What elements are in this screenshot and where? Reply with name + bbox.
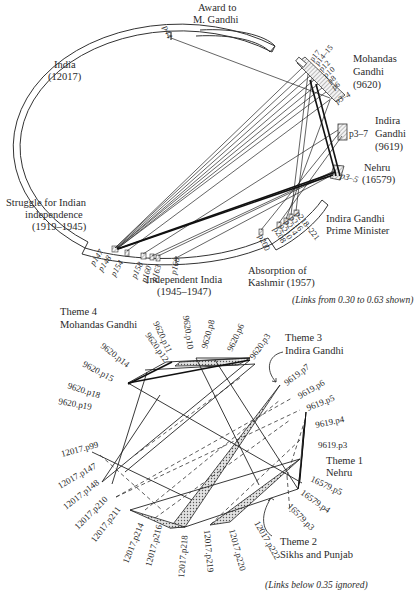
theme3-label-1: Theme 3: [285, 332, 322, 343]
indira-pm-label-2: Prime Minister: [326, 225, 390, 236]
theme1-label-2: Nehru: [326, 467, 353, 478]
node-9619-p7: 9619.p7: [282, 361, 312, 387]
indira-segment: [338, 124, 347, 140]
node-9620-p6: 9620.p6: [225, 322, 247, 353]
nehru-label-2: (16579): [362, 174, 396, 186]
theme3-arrow-icon: [269, 352, 283, 382]
award-page-label: p44: [161, 24, 175, 40]
top-arc-diagram: Award to M. Gandhi p44 India (12017) Moh…: [6, 2, 413, 306]
node-16579-p4: 16579.p4: [299, 487, 333, 515]
node-9619-p3: 9619.p3: [318, 440, 348, 450]
bottom-caption: (Links below 0.35 ignored): [265, 580, 368, 591]
india-label-1: India: [54, 59, 76, 70]
node-9620-p10: 9620.p10: [181, 315, 196, 350]
indira-label-3: (9619): [375, 141, 403, 153]
node-12017-p218: 12017.p218: [176, 534, 190, 578]
theme4-label-2: Mohandas Gandhi: [60, 319, 137, 330]
award-label-1: Award to: [198, 2, 236, 13]
node-9620-p15: 9620.p15: [81, 359, 116, 384]
mohandas-label-3: (9620): [353, 79, 381, 91]
india-label-2: (12017): [48, 71, 82, 83]
node-12017-p99: 12017.p99: [60, 439, 100, 459]
node-9620-p19: 9620.p19: [58, 396, 93, 412]
node-12017-p214: 12017.p214: [121, 521, 146, 565]
theme3-wedge: [170, 385, 280, 528]
indira-pages-label: p3–7: [349, 129, 368, 139]
nehru-label-1: Nehru: [364, 162, 391, 173]
indira-label-2: Gandhi: [375, 128, 406, 139]
node-9620-p3: 9620.p3: [247, 331, 272, 361]
theme1-label-1: Theme 1: [326, 455, 363, 466]
node-9619-p4: 9619.p4: [314, 414, 345, 430]
theme2-label-1: Theme 2: [280, 536, 317, 547]
struggle-label-3: (1919–1945): [32, 221, 87, 233]
struggle-label-1: Struggle for Indian: [6, 197, 87, 208]
mohandas-label-1: Mohandas: [353, 53, 397, 64]
node-16579-p3: 16579.p3: [286, 501, 317, 532]
theme3-label-2: Indira Gandhi: [285, 345, 344, 356]
node-12017-p219: 12017.p219: [202, 529, 216, 573]
mohandas-label-2: Gandhi: [353, 66, 384, 77]
node-9620-p8: 9620.p8: [199, 318, 216, 349]
kashmir-label-2: Kashmir (1957): [248, 277, 315, 289]
node-12017-p222: 12017.p222: [252, 519, 282, 561]
figure-canvas: Award to M. Gandhi p44 India (12017) Moh…: [0, 0, 420, 599]
award-label-2: M. Gandhi: [193, 14, 239, 25]
independent-label-2: (1945–1947): [157, 286, 212, 298]
top-caption: (Links from 0.30 to 0.63 shown): [292, 295, 413, 306]
indira-pm-label-1: Indira Gandhi: [326, 213, 385, 224]
node-12017-p220: 12017.p220: [227, 528, 248, 572]
indira-label-1: Indira: [375, 115, 400, 126]
kashmir-label-1: Absorption of: [248, 265, 307, 276]
node-12017-p216: 12017.p216: [143, 523, 164, 567]
bottom-network-diagram: Theme 4 Mohandas Gandhi Theme 3 Indira G…: [56, 306, 368, 591]
nehru-pages-label: p3–5: [339, 170, 360, 185]
theme4-label-1: Theme 4: [60, 306, 98, 317]
theme2-label-2: Sikhs and Punjab: [280, 549, 353, 560]
node-9620-p14: 9620.p14: [99, 341, 132, 370]
struggle-label-2: independence: [25, 209, 83, 220]
